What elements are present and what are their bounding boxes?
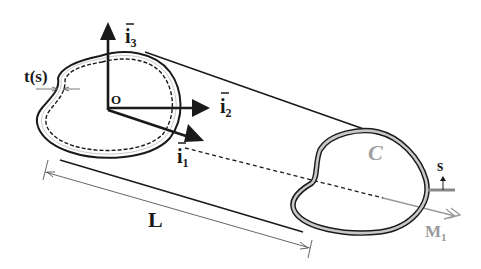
axis-i1 (108, 110, 204, 142)
origin-label: O (111, 92, 121, 107)
length-label: L (148, 207, 163, 232)
bottom-generator-line (60, 160, 303, 232)
centerline-dashed (185, 148, 383, 198)
axis-i2-label: i2 (220, 95, 232, 120)
thickness-label: t(s) (24, 67, 48, 86)
beam-diagram: t(s) s C M1 L O i3 i2 i1 (0, 0, 481, 269)
far-section (293, 131, 427, 233)
contour-label: C (368, 140, 383, 165)
length-dimension (43, 160, 312, 258)
arc-coordinate-marker (428, 176, 455, 190)
axis-i3-label: i3 (125, 25, 137, 50)
moment-label: M1 (425, 222, 447, 243)
arc-coordinate-label: s (437, 157, 443, 174)
